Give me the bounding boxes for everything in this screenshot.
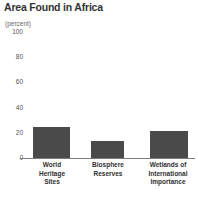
bar-biosphere-reserves xyxy=(91,141,124,158)
x-axis-baseline xyxy=(20,158,195,159)
chart-title: Area Found in Africa xyxy=(4,1,103,13)
x-axis-labels: World Heritage Sites Biosphere Reserves … xyxy=(0,161,198,197)
y-axis-unit-label: (percent) xyxy=(5,20,31,27)
x-axis-label-biosphere-reserves: Biosphere Reserves xyxy=(82,161,134,178)
bar-world-heritage-sites xyxy=(33,127,70,158)
plot-area: 100 80 60 40 20 0 xyxy=(0,28,198,160)
bar-chart: Area Found in Africa (percent) 100 80 60… xyxy=(0,0,198,197)
x-axis-label-wetlands-of-international-importance: Wetlands of International Importance xyxy=(138,161,198,187)
bars-layer xyxy=(0,28,198,158)
bar-wetlands-of-international-importance xyxy=(150,131,188,158)
x-axis-label-world-heritage-sites: World Heritage Sites xyxy=(27,161,77,187)
